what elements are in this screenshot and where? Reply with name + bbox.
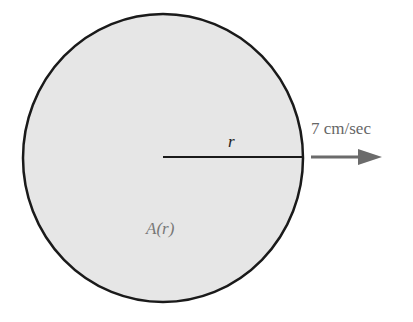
radius-label: r [228, 132, 235, 152]
velocity-arrow-icon [311, 149, 382, 165]
velocity-label: 7 cm/sec [311, 119, 371, 139]
diagram-canvas [0, 0, 413, 322]
area-label: A(r) [146, 219, 174, 239]
